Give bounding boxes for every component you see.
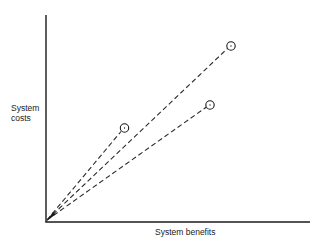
- marker-system-c: [206, 101, 214, 109]
- marker-system-b: [227, 42, 235, 50]
- y-axis-label-line-1: System: [11, 103, 39, 113]
- markers: [120, 42, 235, 132]
- ray-system-b: [47, 49, 228, 221]
- y-axis-label-line-2: costs: [11, 113, 39, 123]
- marker-system-a: [120, 124, 128, 132]
- plot-area: [0, 0, 328, 247]
- cost-benefit-diagram: System costs System benefits: [0, 0, 328, 247]
- series-lines: [47, 49, 228, 221]
- y-axis-label: System costs: [11, 103, 39, 123]
- origin-wedge: [47, 212, 56, 221]
- x-axis-label: System benefits: [155, 227, 215, 237]
